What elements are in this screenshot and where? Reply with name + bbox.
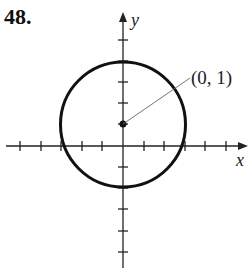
y-axis bbox=[118, 12, 128, 268]
x-axis-arrow-icon bbox=[238, 142, 248, 150]
y-axis-arrow-icon bbox=[119, 12, 127, 22]
point-label: (0, 1) bbox=[191, 67, 232, 89]
x-axis-label: x bbox=[235, 150, 244, 170]
graph: (0, 1) y x bbox=[0, 0, 252, 272]
x-axis bbox=[6, 141, 248, 151]
y-axis-label: y bbox=[129, 10, 139, 30]
